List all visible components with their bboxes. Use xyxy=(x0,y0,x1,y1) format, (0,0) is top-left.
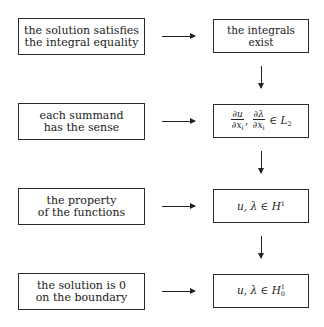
box-in-H01: u, λ ∈ H10 xyxy=(213,274,309,308)
box-label: the solution is 0 on the boundary xyxy=(36,280,128,304)
box-each-summand: each summand has the sense xyxy=(18,103,145,140)
box-derivatives-in-L2: ∂u ∂xi , ∂λ ∂xi ∈ L2 xyxy=(213,104,309,138)
box-integrals-exist: the integrals exist xyxy=(213,19,309,53)
arrow-down-icon xyxy=(261,66,262,88)
arrow-down-icon xyxy=(261,151,262,173)
math-formula: u, λ ∈ H1 xyxy=(237,200,285,212)
arrow-right-icon xyxy=(162,206,195,207)
box-property-functions: the property of the functions xyxy=(18,188,145,225)
box-in-H1: u, λ ∈ H1 xyxy=(213,189,309,223)
math-formula: u, λ ∈ H10 xyxy=(237,284,285,298)
arrow-right-icon xyxy=(162,36,195,37)
box-integral-equality: the solution satisfies the integral equa… xyxy=(18,18,145,55)
math-formula: ∂u ∂xi , ∂λ ∂xi ∈ L2 xyxy=(230,109,291,133)
box-zero-on-boundary: the solution is 0 on the boundary xyxy=(18,273,145,310)
box-label: the solution satisfies the integral equa… xyxy=(24,25,139,49)
fraction-dlambda-dxi: ∂λ ∂xi xyxy=(253,109,265,133)
arrow-right-icon xyxy=(162,121,195,122)
box-label: each summand has the sense xyxy=(39,110,123,134)
arrow-right-icon xyxy=(162,291,195,292)
box-label: the property of the functions xyxy=(38,195,125,219)
fraction-du-dxi: ∂u ∂xi xyxy=(231,109,243,133)
box-label: the integrals exist xyxy=(214,24,308,48)
arrow-down-icon xyxy=(261,236,262,258)
